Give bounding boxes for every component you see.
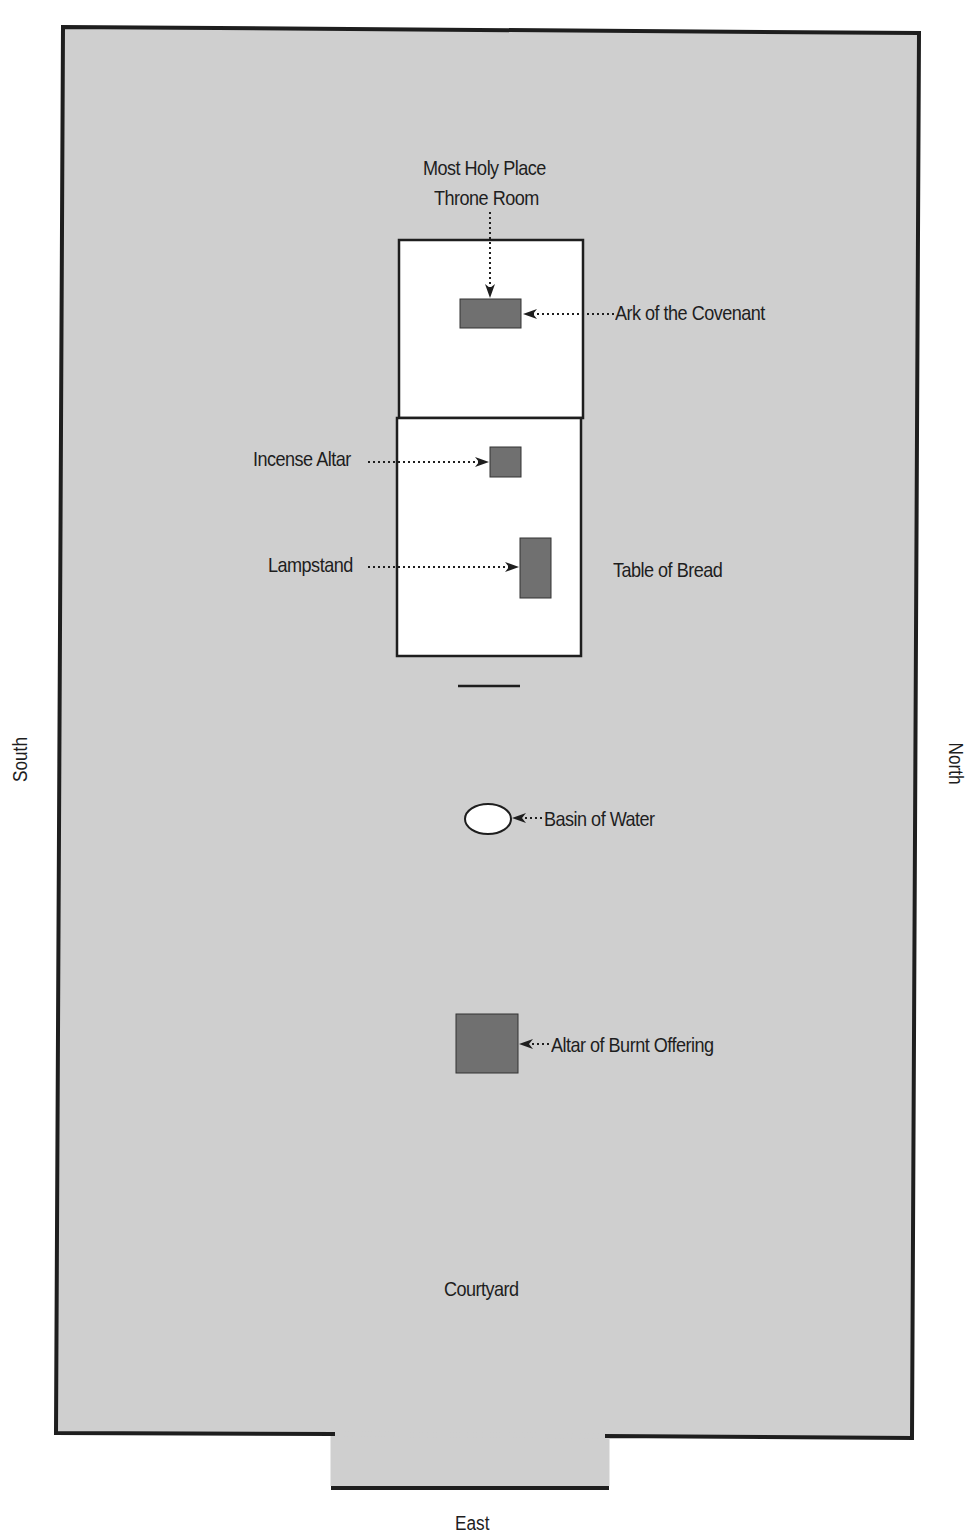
table-of-bread-label: Table of Bread: [613, 558, 722, 582]
incense-altar-label: Incense Altar: [253, 447, 351, 471]
table-of-bread-shape: [520, 538, 551, 598]
altar-of-burnt-offering-shape: [456, 1014, 518, 1073]
incense-altar-shape: [490, 447, 521, 477]
holy-place-room: [397, 418, 581, 656]
compass-east-label: East: [455, 1512, 489, 1534]
most-holy-place-room: [399, 240, 583, 418]
most-holy-place-label: Most Holy Place: [423, 156, 546, 180]
throne-room-label: Throne Room: [434, 186, 539, 210]
basin-of-water-label: Basin of Water: [544, 807, 655, 831]
ark-of-covenant-label: Ark of the Covenant: [615, 301, 765, 325]
basin-of-water-shape: [465, 804, 511, 834]
ark-of-covenant-shape: [460, 299, 521, 328]
courtyard-label: Courtyard: [444, 1277, 519, 1301]
altar-of-burnt-offering-label: Altar of Burnt Offering: [551, 1033, 713, 1057]
compass-north-label: North: [944, 738, 967, 790]
compass-south-label: South: [9, 734, 32, 786]
lampstand-label: Lampstand: [268, 553, 353, 577]
